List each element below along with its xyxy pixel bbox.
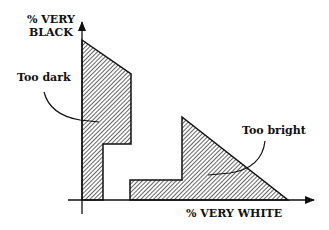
y-axis-label-line2: BLACK [27,26,75,39]
y-axis-label: % VERY BLACK [27,13,75,39]
too-bright-label: Too bright [242,124,306,137]
x-axis-label: % VERY WHITE [186,207,282,220]
too-dark-label: Too dark [17,71,71,84]
too-dark-region [82,40,131,200]
y-axis-label-line1: % VERY [27,13,75,26]
diagram-canvas: % VERY BLACK Too dark Too bright % VERY … [0,0,329,230]
